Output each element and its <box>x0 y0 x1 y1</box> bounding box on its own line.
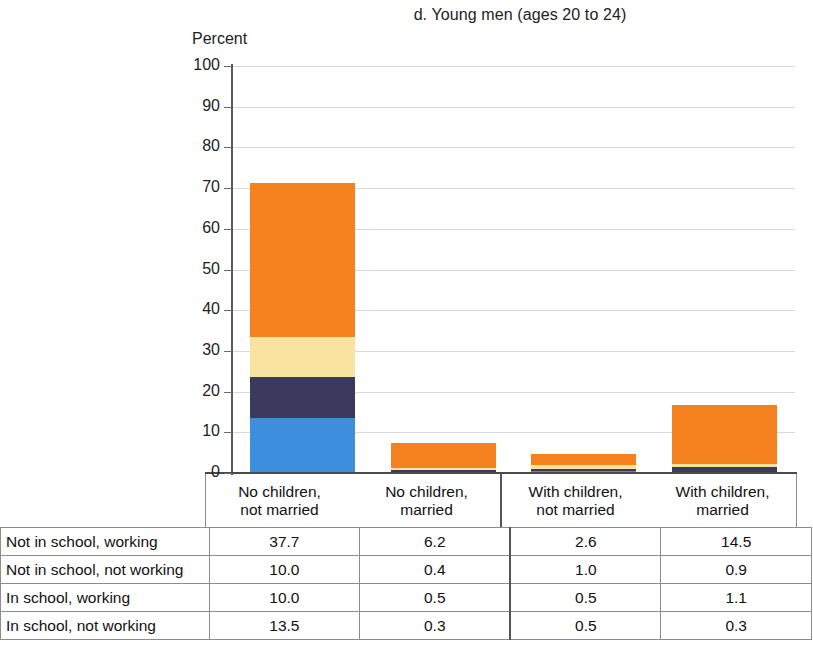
plot-area <box>232 66 795 473</box>
category-header-row: No children,not marriedNo children,marri… <box>205 474 797 527</box>
y-tick-mark <box>224 432 232 433</box>
category-label-line: With children, <box>529 483 623 501</box>
category-label-line: married <box>696 501 749 519</box>
category-label-line: No children, <box>385 483 468 501</box>
y-tick-label: 50 <box>182 260 220 278</box>
category-label-line: married <box>400 501 453 519</box>
category-label-3: With children,not married <box>500 474 649 527</box>
bar-segment <box>672 405 777 464</box>
table-cell: 2.6 <box>510 528 661 556</box>
data-table: Not in school, working37.76.22.614.5Not … <box>0 527 812 640</box>
bar-segment <box>531 454 636 465</box>
bar-stack[interactable] <box>250 183 355 473</box>
table-row-label: Not in school, not working <box>1 556 210 584</box>
table-cell: 0.9 <box>661 556 812 584</box>
category-label-line: No children, <box>238 483 321 501</box>
table-cell: 0.3 <box>661 612 812 640</box>
y-tick-label: 10 <box>182 422 220 440</box>
y-tick-mark <box>224 310 232 311</box>
table-cell: 6.2 <box>360 528 511 556</box>
gridline <box>232 147 795 148</box>
gridline <box>232 107 795 108</box>
bar-segment <box>250 418 355 473</box>
y-tick-mark <box>224 351 232 352</box>
y-tick-mark <box>224 107 232 108</box>
category-label-2: No children,married <box>353 474 500 527</box>
table-cell: 0.4 <box>360 556 511 584</box>
table-row: Not in school, working37.76.22.614.5 <box>1 528 812 556</box>
table-cell: 10.0 <box>209 556 360 584</box>
table-cell: 14.5 <box>661 528 812 556</box>
y-tick-mark <box>224 66 232 67</box>
table-row: In school, working10.00.50.51.1 <box>1 584 812 612</box>
y-tick-label: 30 <box>182 341 220 359</box>
category-label-4: With children,married <box>649 474 796 527</box>
bar-stack[interactable] <box>672 405 777 473</box>
y-tick-mark <box>224 392 232 393</box>
y-tick-label: 90 <box>182 97 220 115</box>
y-axis-label: Percent <box>192 30 247 48</box>
table-cell: 0.5 <box>510 612 661 640</box>
y-tick-label: 60 <box>182 219 220 237</box>
table-row-label: In school, working <box>1 584 210 612</box>
table-cell: 0.5 <box>510 584 661 612</box>
table-row: In school, not working13.50.30.50.3 <box>1 612 812 640</box>
y-tick-mark <box>224 188 232 189</box>
table-row: Not in school, not working10.00.41.00.9 <box>1 556 812 584</box>
y-tick-label: 100 <box>182 56 220 74</box>
bar-stack[interactable] <box>531 454 636 473</box>
bar-stack[interactable] <box>391 443 496 473</box>
bar-segment <box>250 183 355 336</box>
y-tick-label: 80 <box>182 137 220 155</box>
table-row-label: In school, not working <box>1 612 210 640</box>
category-label-line: not married <box>536 501 614 519</box>
gridline <box>232 66 795 67</box>
table-cell: 1.0 <box>510 556 661 584</box>
bar-segment <box>250 377 355 418</box>
y-tick-mark <box>224 270 232 271</box>
bar-segment <box>391 443 496 468</box>
y-tick-mark <box>224 229 232 230</box>
category-label-1: No children,not married <box>206 474 353 527</box>
chart-title: d. Young men (ages 20 to 24) <box>300 6 740 24</box>
table-cell: 0.5 <box>360 584 511 612</box>
table-cell: 0.3 <box>360 612 511 640</box>
y-tick-mark <box>224 147 232 148</box>
table-cell: 13.5 <box>209 612 360 640</box>
bar-segment <box>250 337 355 378</box>
table-row-label: Not in school, working <box>1 528 210 556</box>
table-cell: 1.1 <box>661 584 812 612</box>
y-tick-label: 40 <box>182 300 220 318</box>
table-cell: 10.0 <box>209 584 360 612</box>
table-cell: 37.7 <box>209 528 360 556</box>
category-label-line: With children, <box>676 483 770 501</box>
y-tick-label: 20 <box>182 382 220 400</box>
category-label-line: not married <box>240 501 318 519</box>
y-tick-label: 70 <box>182 178 220 196</box>
